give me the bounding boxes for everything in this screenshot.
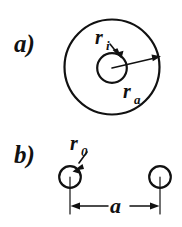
panel-b-label: b) [14,141,35,169]
inner-radius-label-base: r [95,26,103,48]
figure-svg: a) r a r i b) [0,0,182,227]
dimension-left-arrowhead [71,202,81,209]
panel-b-group: b) a r 0 [14,132,171,218]
r0-label-subscript: 0 [81,144,88,159]
inner-radius-label: r i [95,26,110,53]
outer-radius-label-subscript: a [134,92,141,107]
outer-radius-line [112,58,155,68]
separation-label: a [110,193,121,218]
dimension-right-arrowhead [150,202,160,209]
r0-label: r 0 [70,132,88,159]
figure-container: a) r a r i b) [0,0,182,227]
inner-radius-label-subscript: i [106,38,110,53]
outer-circle [65,20,160,115]
panel-a-group: a) r a r i [14,20,161,115]
outer-radius-label-base: r [123,80,131,102]
r0-label-base: r [70,132,78,154]
panel-a-label: a) [14,30,35,58]
outer-radius-label: r a [123,80,141,107]
r0-arrowhead [73,164,85,174]
